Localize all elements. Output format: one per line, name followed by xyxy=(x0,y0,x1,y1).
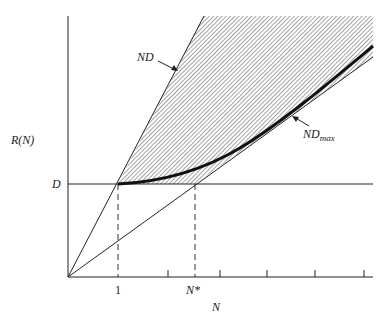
y-axis-label: R(N) xyxy=(11,133,34,148)
nd-max-label: NDmax xyxy=(303,127,335,143)
diagram-canvas xyxy=(0,0,387,319)
nd-arrow xyxy=(158,61,178,71)
nd-label: ND xyxy=(137,50,154,65)
nd-max-label-main: ND xyxy=(303,127,320,141)
x-ticks xyxy=(168,270,364,277)
x-tick-label-1: 1 xyxy=(115,283,121,298)
d-level-label: D xyxy=(52,177,61,192)
x-tick-label-nstar: N* xyxy=(186,283,200,298)
nd-max-label-sub: max xyxy=(320,133,335,143)
nd-max-arrow xyxy=(292,116,309,126)
shaded-region xyxy=(118,16,373,184)
x-axis-label: N xyxy=(212,300,220,315)
